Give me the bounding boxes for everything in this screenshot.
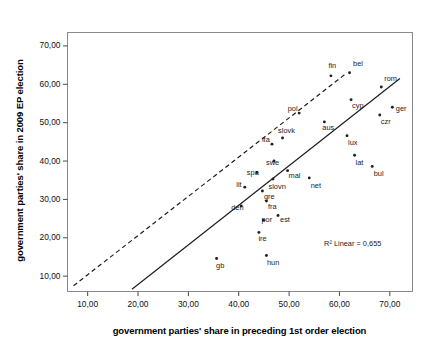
point-label-ita: ita xyxy=(262,135,270,144)
data-point-pol xyxy=(298,112,301,115)
point-label-pol: pol xyxy=(288,104,298,113)
point-label-lit: lit xyxy=(236,180,241,189)
plot-canvas xyxy=(0,0,430,352)
data-point-czr xyxy=(378,114,381,117)
point-label-fra: fra xyxy=(268,202,277,211)
x-tick-label: 60,00 xyxy=(317,299,361,309)
point-label-gb: gb xyxy=(216,261,224,270)
point-label-den: den xyxy=(231,203,243,212)
x-tick-label: 30,00 xyxy=(166,299,210,309)
r2-annotation: R² Linear = 0,655 xyxy=(324,239,381,248)
point-label-est: est xyxy=(280,215,290,224)
y-tick-label: 50,00 xyxy=(17,117,61,127)
data-point-slovn xyxy=(272,178,275,181)
data-point-lat xyxy=(353,154,356,157)
x-tick-label: 20,00 xyxy=(116,299,160,309)
point-label-rom: rom xyxy=(384,74,397,83)
y-tick-label: 60,00 xyxy=(17,79,61,89)
y-tick-label: 40,00 xyxy=(17,156,61,166)
data-point-bel xyxy=(348,71,351,74)
point-label-lux: lux xyxy=(348,138,357,147)
y-tick-label: 20,00 xyxy=(17,232,61,242)
x-tick-label: 40,00 xyxy=(217,299,261,309)
x-tick-label: 50,00 xyxy=(267,299,311,309)
point-label-slovk: slovk xyxy=(278,126,295,135)
point-label-aus: aus xyxy=(322,123,334,132)
data-point-hun xyxy=(265,254,268,257)
x-axis-title: government parties' share in preceding 1… xyxy=(67,325,412,336)
point-label-fin: fin xyxy=(328,61,336,70)
point-label-bul: bul xyxy=(374,169,384,178)
point-label-cyp: cyp xyxy=(352,101,364,110)
data-point-fin xyxy=(329,74,332,77)
data-point-bul xyxy=(371,165,374,168)
x-tick-label: 70,00 xyxy=(368,299,412,309)
data-point-ita xyxy=(271,143,274,146)
point-label-slovn: slovn xyxy=(268,182,285,191)
point-label-mal: mal xyxy=(289,171,301,180)
x-tick-label: 10,00 xyxy=(66,299,110,309)
axis-ticks xyxy=(63,46,390,296)
point-label-spa: spa xyxy=(247,168,259,177)
data-point-lit xyxy=(243,186,246,189)
y-tick-label: 10,00 xyxy=(17,271,61,281)
data-point-gb xyxy=(215,257,218,260)
scatter-plot: government parties' share in 2009 EP ele… xyxy=(0,0,430,352)
diagonal-reference-line xyxy=(74,73,347,286)
regression-line xyxy=(132,79,400,290)
y-tick-label: 30,00 xyxy=(17,194,61,204)
point-label-ger: ger xyxy=(396,104,407,113)
data-point-ger xyxy=(391,106,394,109)
point-label-por: por xyxy=(261,215,272,224)
y-tick-label: 70,00 xyxy=(17,40,61,50)
data-point-rom xyxy=(380,86,383,89)
point-label-gre: gre xyxy=(264,192,275,201)
data-point-net xyxy=(308,176,311,179)
point-label-net: net xyxy=(311,181,321,190)
point-label-czr: czr xyxy=(381,117,391,126)
point-label-bel: bel xyxy=(353,59,363,68)
point-label-lat: lat xyxy=(356,158,364,167)
data-points xyxy=(215,71,394,260)
data-point-slovk xyxy=(281,137,284,140)
point-label-ire: ire xyxy=(258,234,266,243)
point-label-hun: hun xyxy=(267,258,279,267)
point-label-swe: swe xyxy=(266,158,279,167)
